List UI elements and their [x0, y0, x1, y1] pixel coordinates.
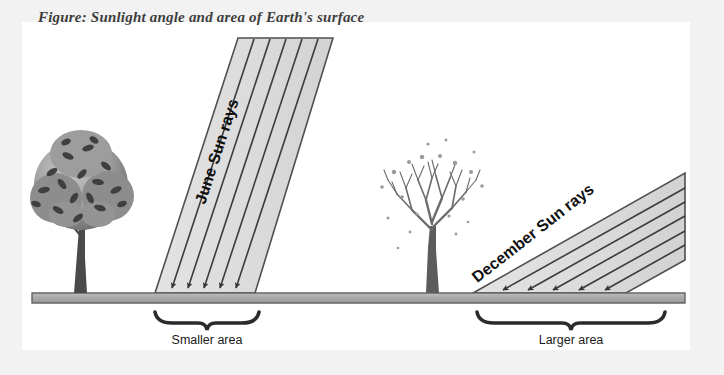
larger-area-annotation: Larger area — [477, 312, 665, 347]
ground-bar — [32, 293, 685, 303]
smaller-area-label: Smaller area — [172, 333, 243, 347]
june-sun-beam-group: June Sun rays — [155, 38, 333, 293]
larger-area-label: Larger area — [539, 333, 604, 347]
page-background: Figure: Sunlight angle and area of Earth… — [0, 0, 724, 375]
sun-angle-diagram: June Sun rays December Sun rays — [22, 22, 690, 350]
ground-surface — [32, 293, 685, 303]
smaller-area-brace — [155, 312, 259, 330]
figure-card: Figure: Sunlight angle and area of Earth… — [22, 22, 690, 350]
summer-tree-trunk — [74, 228, 87, 293]
smaller-area-annotation: Smaller area — [155, 312, 259, 347]
december-sun-beam-group: December Sun rays — [469, 173, 685, 293]
winter-tree-trunk — [426, 226, 439, 293]
winter-tree-branches — [384, 160, 480, 230]
larger-area-brace — [477, 312, 665, 330]
winter-tree — [380, 139, 484, 294]
summer-tree — [30, 130, 134, 293]
